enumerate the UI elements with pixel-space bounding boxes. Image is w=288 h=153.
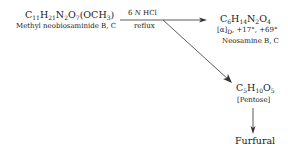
- product-1-name: Neosamine B, C: [222, 38, 279, 45]
- reagent-condition: reflux: [134, 23, 155, 30]
- product-3-name: Furfural: [235, 136, 275, 146]
- reactant-formula: C11H21N2O7(OCH3): [25, 10, 114, 20]
- reagent-label: 6 N HCl: [128, 10, 157, 17]
- product-2-formula: C5H10O5: [236, 83, 275, 93]
- product-1-rotation: [α]D, +17°, +69°: [217, 27, 277, 34]
- product-1-formula: C6H14N2O4: [220, 14, 271, 24]
- reactant-name: Methyl neobiosaminide B, C: [16, 23, 116, 30]
- product-2-name: [Pentose]: [237, 97, 270, 104]
